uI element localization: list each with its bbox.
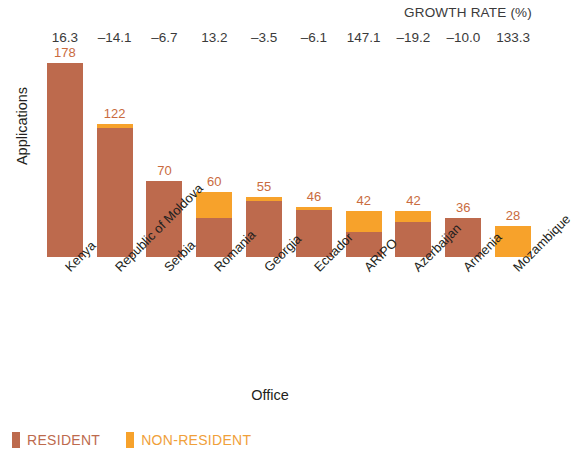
legend-label: NON-RESIDENT bbox=[141, 432, 251, 448]
growth-rate-value: 133.3 bbox=[488, 30, 538, 48]
bar-total-label: 42 bbox=[356, 193, 370, 208]
bar-total-label: 60 bbox=[207, 174, 221, 189]
bar-total-label: 55 bbox=[257, 179, 271, 194]
bar-total-label: 178 bbox=[54, 45, 76, 60]
x-axis-tick: Serbia bbox=[140, 258, 190, 368]
legend-swatch-icon bbox=[126, 432, 134, 448]
bar-total-label: 46 bbox=[307, 189, 321, 204]
bar-segment-non-resident bbox=[346, 211, 382, 232]
growth-rate-value: –3.5 bbox=[239, 30, 289, 48]
growth-rate-value: –19.2 bbox=[389, 30, 439, 48]
bar-group: 28 bbox=[488, 55, 538, 257]
x-axis-tick: Armenia bbox=[438, 258, 488, 368]
x-axis-tick: Mozambique bbox=[488, 258, 538, 368]
stacked-bar bbox=[47, 63, 83, 257]
growth-rate-value: –6.7 bbox=[140, 30, 190, 48]
bar-group: 46 bbox=[289, 55, 339, 257]
legend-label: RESIDENT bbox=[27, 432, 100, 448]
legend-swatch-icon bbox=[12, 432, 20, 448]
growth-rate-value: 147.1 bbox=[339, 30, 389, 48]
bar-total-label: 36 bbox=[456, 200, 470, 215]
bar-group: 122 bbox=[90, 55, 140, 257]
growth-rate-value: 13.2 bbox=[189, 30, 239, 48]
x-axis-tick: Ecuador bbox=[289, 258, 339, 368]
stacked-bar bbox=[97, 124, 133, 257]
chart-legend: RESIDENTNON-RESIDENT bbox=[12, 432, 251, 448]
bar-segment-resident bbox=[97, 128, 133, 257]
bar-total-label: 28 bbox=[506, 208, 520, 223]
bar-total-label: 70 bbox=[157, 163, 171, 178]
bar-total-label: 42 bbox=[406, 193, 420, 208]
bar-group: 60 bbox=[189, 55, 239, 257]
x-axis-tick: Republic of Moldova bbox=[90, 258, 140, 368]
x-axis-tick: Romania bbox=[189, 258, 239, 368]
growth-rate-value: –14.1 bbox=[90, 30, 140, 48]
x-axis-category-labels: KenyaRepublic of MoldovaSerbiaRomaniaGeo… bbox=[40, 258, 538, 368]
plot-area: 1781227060554642423628 bbox=[40, 55, 538, 257]
x-axis-tick: Georgia bbox=[239, 258, 289, 368]
growth-rate-value: –10.0 bbox=[438, 30, 488, 48]
bar-segment-resident bbox=[47, 63, 83, 257]
bar-segment-non-resident bbox=[395, 211, 431, 222]
growth-rate-values-row: 16.3–14.1–6.713.2–3.5–6.1147.1–19.2–10.0… bbox=[40, 30, 538, 48]
legend-item[interactable]: RESIDENT bbox=[12, 432, 100, 448]
x-axis-tick: Kenya bbox=[40, 258, 90, 368]
x-axis-title: Office bbox=[0, 387, 540, 403]
bar-total-label: 122 bbox=[104, 106, 126, 121]
bar-group: 42 bbox=[389, 55, 439, 257]
x-axis-tick: Azerbaijan bbox=[389, 258, 439, 368]
x-axis-tick: ARIPO bbox=[339, 258, 389, 368]
bar-group: 178 bbox=[40, 55, 90, 257]
y-axis-title: Applications bbox=[14, 46, 30, 206]
growth-rate-value: –6.1 bbox=[289, 30, 339, 48]
legend-item[interactable]: NON-RESIDENT bbox=[126, 432, 251, 448]
growth-rate-header-label: GROWTH RATE (%) bbox=[404, 5, 532, 20]
bar-group: 42 bbox=[339, 55, 389, 257]
